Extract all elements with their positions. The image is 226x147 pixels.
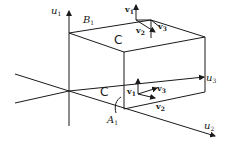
diagram-canvas: u1 B1 u3 u2 A1 v1 v2 v3 v1 v3 v2 C C bbox=[0, 0, 226, 147]
top-v1-label: v1 bbox=[125, 5, 134, 15]
top-v2-label: v2 bbox=[136, 26, 145, 36]
bottom-v1-label: v1 bbox=[127, 87, 136, 97]
bottom-v3-label: v3 bbox=[157, 84, 166, 94]
a1-label: A1 bbox=[107, 115, 118, 126]
orientation-arrow-bottom-icon: C bbox=[100, 86, 108, 98]
u2-label: u2 bbox=[204, 121, 214, 132]
top-v3-label: v3 bbox=[158, 22, 167, 32]
b1-label: B1 bbox=[83, 15, 94, 26]
u3-label: u3 bbox=[206, 73, 216, 84]
u3-axis bbox=[69, 77, 204, 91]
u1-label: u1 bbox=[51, 6, 61, 17]
u2-axis bbox=[69, 91, 215, 136]
bottom-v2-label: v2 bbox=[156, 102, 165, 112]
orientation-arrow-top-icon: C bbox=[114, 34, 122, 46]
